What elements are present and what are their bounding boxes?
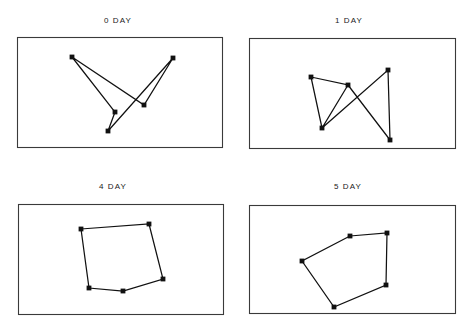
vertex-marker	[385, 231, 390, 236]
vertex-marker	[348, 234, 353, 239]
vertex-marker	[332, 305, 337, 310]
vertex-marker	[384, 283, 389, 288]
panel-frame	[250, 206, 456, 314]
panel-plot-5-day	[0, 0, 471, 327]
vertex-marker	[300, 259, 305, 264]
panel-svg-5-day	[0, 0, 471, 327]
figure-canvas: 0 DAY 1 DAY 4 DAY 5 DAY	[0, 0, 471, 327]
